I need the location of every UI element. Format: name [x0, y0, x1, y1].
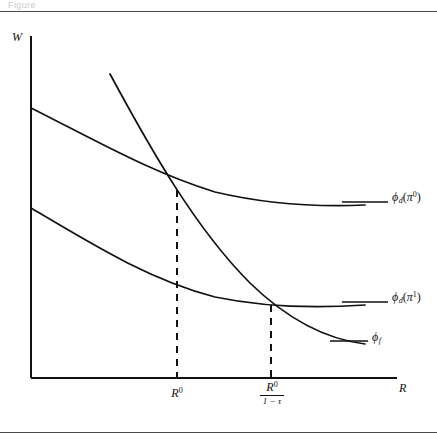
numerator-superscript: 0: [274, 380, 278, 389]
curve-label-phi-d-pi0: ϕd(π0): [392, 190, 421, 205]
paren-close: ): [417, 290, 421, 304]
numerator-base: R: [266, 380, 273, 394]
tick-superscript: 0: [179, 386, 183, 395]
x-tick-label-R0: R0: [157, 386, 197, 401]
bottom-divider-rule: [0, 432, 437, 433]
y-axis-label: W: [12, 30, 22, 45]
x-axis-label: R: [399, 381, 406, 396]
plot-canvas: [0, 0, 437, 445]
paren-close: ): [417, 190, 421, 204]
fraction-numerator: R0: [260, 381, 284, 394]
curve-label-phi-f: ϕf: [372, 330, 381, 345]
curve-phi-d-pi0: [31, 108, 365, 206]
curve-phi-d-pi1: [31, 208, 365, 307]
x-tick-label-R0-over-1-minus-tau: R0 1 − τ: [246, 381, 298, 408]
curve-phi-f: [110, 74, 365, 344]
phi-subscript: f: [378, 336, 381, 345]
fraction: R0 1 − τ: [260, 381, 284, 407]
tick-base: R: [171, 386, 178, 400]
figure-container: Figure W R ϕd(π0) ϕd(π1) ϕf R0 R0 1 − τ: [0, 0, 437, 445]
curve-label-phi-d-pi1: ϕd(π1): [392, 290, 421, 305]
fraction-denominator: 1 − τ: [260, 397, 284, 407]
